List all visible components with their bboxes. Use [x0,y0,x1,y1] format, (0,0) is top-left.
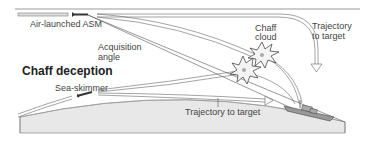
label-sea-skimmer: Sea-skimmer [55,83,108,93]
label-trajectory-top-line2: to target [312,31,345,41]
label-trajectory-top-line1: Trajectory [312,21,352,31]
label-trajectory-bottom: Trajectory to target [185,107,260,117]
diagram-title: Chaff deception [22,64,113,78]
label-acquisition-line2: angle [98,52,120,62]
label-acquisition-line1: Acquisition [98,42,142,52]
chaff-deception-diagram: Air-launched ASM Acquisition angle Chaff… [0,0,376,141]
label-air-launched-asm: Air-launched ASM [30,19,102,29]
sea-surface [20,100,345,133]
air-asm-track [18,13,68,16]
label-chaff-line2: cloud [255,32,277,42]
air-launched-missile-icon [72,12,88,17]
chaff-cloud-upper-icon [248,42,279,68]
